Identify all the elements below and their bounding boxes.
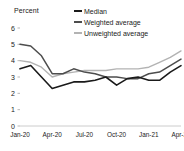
plot-area xyxy=(0,0,184,151)
y-axis-tick-label: 0 xyxy=(3,123,15,130)
x-axis-tick-label: Jul-20 xyxy=(67,131,101,138)
y-axis-tick-label: 1 xyxy=(3,106,15,113)
chart-svg xyxy=(0,0,184,151)
y-axis-tick-label: 2 xyxy=(3,90,15,97)
x-axis-tick-label: Jan-21 xyxy=(132,131,166,138)
chart-container: Percent Median Weighted average Unweight… xyxy=(0,0,184,151)
y-axis-tick-label: 5 xyxy=(3,41,15,48)
x-axis-tick-label: Apr-20 xyxy=(35,131,69,138)
x-axis-tick-label: Jan-20 xyxy=(3,131,37,138)
y-axis-tick-label: 3 xyxy=(3,74,15,81)
series-line-weighted-average xyxy=(20,44,181,78)
y-axis-tick-label: 4 xyxy=(3,57,15,64)
y-axis-tick-label: 6 xyxy=(3,25,15,32)
x-axis-tick-label: Oct-20 xyxy=(100,131,134,138)
x-axis-tick-label: Apr-21 xyxy=(164,131,184,138)
